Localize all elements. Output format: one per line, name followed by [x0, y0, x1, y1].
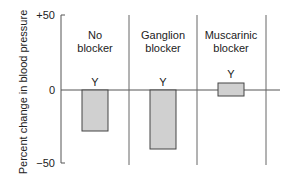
bar-marker-1: Y: [91, 76, 99, 88]
ytick-plus50: +50: [36, 9, 55, 21]
category-label-2b: blocker: [145, 42, 181, 54]
category-label-2a: Ganglion: [141, 29, 185, 41]
category-label-3a: Muscarinic: [205, 29, 258, 41]
bar-marker-3: Y: [227, 68, 235, 80]
y-axis-label: Percent change in blood pressure: [17, 10, 29, 175]
bar-muscarinic-blocker: [218, 83, 244, 96]
bar-no-blocker: [82, 90, 108, 131]
ytick-minus50: −50: [36, 157, 55, 169]
ytick-0: 0: [49, 84, 55, 96]
bar-ganglion-blocker: [150, 90, 176, 149]
category-label-1b: blocker: [77, 42, 113, 54]
chart: Percent change in blood pressure +50 0 −…: [0, 0, 288, 183]
bar-marker-2: Y: [159, 76, 167, 88]
category-label-3b: blocker: [213, 42, 249, 54]
category-label-1a: No: [88, 29, 102, 41]
